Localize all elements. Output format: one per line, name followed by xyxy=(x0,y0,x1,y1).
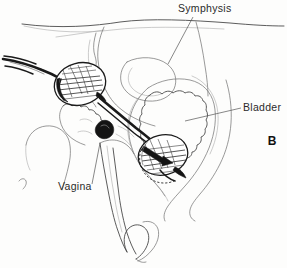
leader-line-bladder xyxy=(185,108,241,121)
label-vagina: Vagina xyxy=(58,180,92,192)
abdominal-wall-contour xyxy=(22,20,284,27)
perineum-curl-left xyxy=(124,225,149,259)
medical-illustration-figure: Symphysis Bladder Vagina B xyxy=(0,0,287,268)
catheter-tube-fork-lower xyxy=(5,66,33,74)
leader-line-vagina xyxy=(92,143,100,184)
internal-fold-detail-2 xyxy=(78,131,92,134)
tissue-hook-mark xyxy=(19,179,26,189)
abdominal-wall-tail xyxy=(56,30,104,37)
lateral-wall-right xyxy=(190,80,232,221)
leader-line-symphysis xyxy=(168,17,193,64)
internal-fold-detail xyxy=(80,119,92,122)
vaginal-canal-anterior xyxy=(100,143,127,252)
urogenital-fold-lower xyxy=(60,106,85,145)
panel-letter-label: B xyxy=(268,134,277,148)
anterior-vaginal-wall xyxy=(100,140,134,154)
label-symphysis: Symphysis xyxy=(178,2,231,14)
pelvic-envelope xyxy=(98,27,155,126)
device-layer xyxy=(3,56,192,183)
shaft-collar xyxy=(95,120,113,138)
label-bladder: Bladder xyxy=(243,101,281,113)
perivaginal-lobe-lower xyxy=(26,145,30,170)
symphysis-pubis xyxy=(121,58,176,101)
illustration-canvas: Symphysis Bladder Vagina B xyxy=(0,0,287,268)
